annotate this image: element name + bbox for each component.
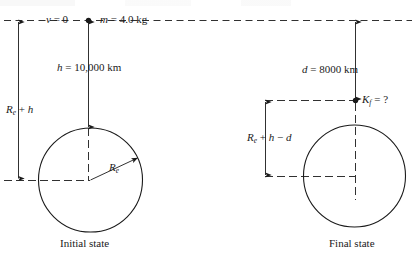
diagram-canvas (0, 0, 416, 253)
velocity-label: v = 0 (46, 14, 68, 25)
initial-state-caption: Initial state (60, 238, 109, 249)
final-state-caption: Final state (329, 238, 375, 249)
mass-point-marker-initial (86, 18, 91, 23)
drop-distance-label: d = 8000 km (302, 64, 358, 75)
final-position-marker (353, 98, 358, 103)
mass-label: m = 4.0 kg (100, 14, 147, 25)
physics-diagram-figure: v = 0 m = 4.0 kg h = 10,000 km Re + h Re… (0, 0, 416, 253)
height-label: h = 10,000 km (57, 62, 121, 73)
earth-radius-label: Re (109, 162, 119, 173)
radius-plus-height-label: Re + h (6, 104, 33, 115)
remaining-distance-label: Re + h − d (247, 132, 292, 143)
earth-circle-final (304, 125, 406, 227)
final-kinetic-energy-label: Kf = ? (362, 94, 388, 105)
